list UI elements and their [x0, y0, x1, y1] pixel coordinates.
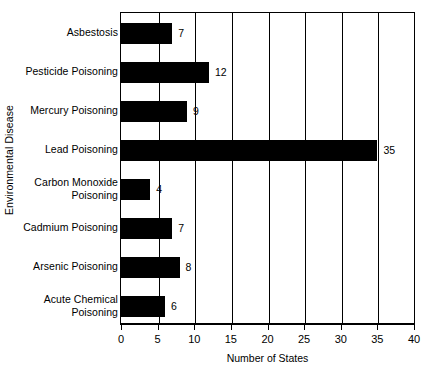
category-label-line: Acute Chemical [16, 293, 118, 306]
x-tick-label-10: 10 [188, 333, 200, 345]
category-label-line: Lead Poisoning [16, 143, 118, 156]
category-label-list: AsbestosisPesticide PoisoningMercury Poi… [16, 12, 118, 324]
x-tick-25 [304, 324, 305, 330]
category-label-line: Cadmium Poisoning [16, 221, 118, 234]
x-tick-label-15: 15 [225, 333, 237, 345]
bar [121, 218, 172, 239]
bar [121, 179, 150, 200]
x-tick-10 [194, 324, 195, 330]
category-label-line: Carbon Monoxide [16, 176, 118, 189]
category-label-line: Arsenic Poisoning [16, 260, 118, 273]
gridline-20 [269, 13, 270, 323]
x-tick-label-0: 0 [118, 333, 124, 345]
bar-value-label: 7 [178, 223, 184, 234]
x-tick-40 [414, 324, 415, 330]
x-tick-30 [341, 324, 342, 330]
category-label-line: Mercury Poisoning [16, 104, 118, 117]
x-tick-20 [268, 324, 269, 330]
gridline-35 [378, 13, 379, 323]
bar-value-label: 4 [156, 184, 162, 195]
bar [121, 101, 187, 122]
category-label: Pesticide Poisoning [16, 65, 118, 78]
gridline-30 [342, 13, 343, 323]
category-label-line: Pesticide Poisoning [16, 65, 118, 78]
x-tick-label-25: 25 [298, 333, 310, 345]
x-tick-label-30: 30 [335, 333, 347, 345]
bar [121, 296, 165, 317]
category-label-line: Poisoning [16, 306, 118, 319]
category-label: Carbon MonoxidePoisoning [16, 176, 118, 201]
x-axis: Number of States 0510152025303540 [120, 324, 415, 373]
x-tick-label-5: 5 [155, 333, 161, 345]
bar-value-label: 12 [215, 67, 227, 78]
bar [121, 62, 209, 83]
bar-value-label: 6 [171, 301, 177, 312]
category-label: Acute ChemicalPoisoning [16, 293, 118, 318]
bar [121, 23, 172, 44]
category-label: Asbestosis [16, 26, 118, 39]
x-tick-35 [377, 324, 378, 330]
gridline-15 [232, 13, 233, 323]
bar [121, 140, 377, 161]
gridline-25 [305, 13, 306, 323]
x-tick-5 [158, 324, 159, 330]
bar [121, 257, 180, 278]
category-label-line: Poisoning [16, 189, 118, 202]
x-tick-15 [231, 324, 232, 330]
bar-chart: Environmental Disease AsbestosisPesticid… [0, 0, 429, 373]
bar-value-label: 9 [193, 106, 199, 117]
gridline-10 [195, 13, 196, 323]
x-tick-0 [121, 324, 122, 330]
x-tick-label-20: 20 [261, 333, 273, 345]
category-label: Lead Poisoning [16, 143, 118, 156]
category-label-line: Asbestosis [16, 26, 118, 39]
bar-value-label: 8 [186, 262, 192, 273]
x-tick-label-35: 35 [371, 333, 383, 345]
x-tick-label-40: 40 [408, 333, 420, 345]
y-axis-title-text: Environmental Disease [3, 105, 15, 215]
x-axis-title: Number of States [120, 352, 415, 364]
bar-value-label: 7 [178, 28, 184, 39]
category-label: Arsenic Poisoning [16, 260, 118, 273]
bar-value-label: 35 [383, 145, 395, 156]
category-label: Mercury Poisoning [16, 104, 118, 117]
plot-area: 7129354786 [120, 12, 415, 324]
category-label: Cadmium Poisoning [16, 221, 118, 234]
